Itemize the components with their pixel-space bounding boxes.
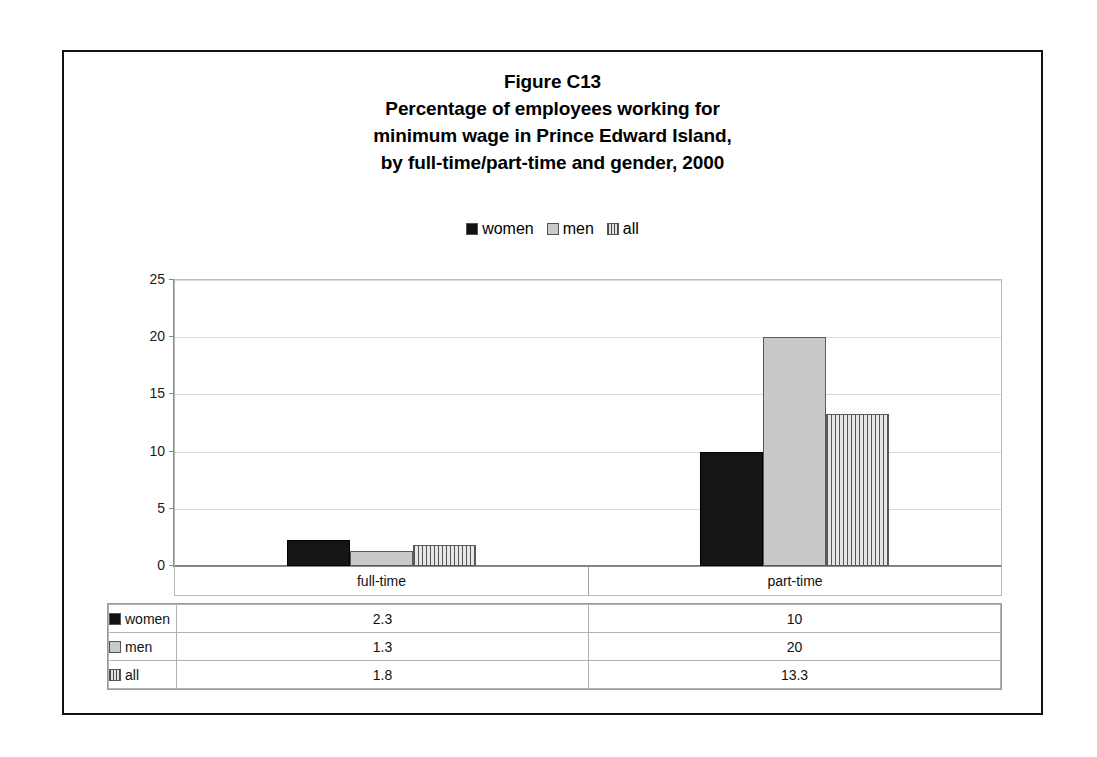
solid-black-swatch-icon — [466, 223, 478, 235]
bar-group-part-time — [588, 278, 1001, 566]
bar-women-part-time — [700, 452, 763, 566]
table-cell-all-part-time: 13.3 — [589, 661, 1001, 689]
chart-legend: women men all — [64, 220, 1041, 238]
y-axis-tick-mark — [169, 565, 174, 566]
category-label-part-time: part-time — [588, 567, 1001, 595]
table-row: women 2.3 10 — [109, 605, 1001, 633]
legend-label-men: men — [563, 220, 594, 238]
y-axis-tick-label: 20 — [149, 328, 165, 344]
solid-gray-swatch-icon — [547, 223, 559, 235]
data-table: women 2.3 10 men 1.3 — [107, 603, 1002, 690]
bar-men-part-time — [763, 337, 826, 566]
y-axis-tick-label: 25 — [149, 271, 165, 287]
y-axis-tick-mark — [169, 508, 174, 509]
legend-item-men: men — [547, 220, 594, 238]
solid-gray-swatch-icon — [109, 641, 121, 653]
bar-group-full-time — [175, 278, 588, 566]
table-cell-all-full-time: 1.8 — [177, 661, 589, 689]
bar-all-part-time — [826, 414, 889, 566]
category-axis-strip: full-time part-time — [174, 567, 1002, 596]
table-cell-women-full-time: 2.3 — [177, 605, 589, 633]
bar-all-full-time — [413, 545, 476, 566]
bar-men-full-time — [350, 551, 413, 566]
table-row-key-women: women — [109, 605, 177, 633]
table-key-label: women — [125, 611, 170, 627]
table-cell-men-full-time: 1.3 — [177, 633, 589, 661]
solid-black-swatch-icon — [109, 613, 121, 625]
legend-item-all: all — [607, 220, 639, 238]
legend-label-women: women — [482, 220, 534, 238]
bar-women-full-time — [287, 540, 350, 566]
y-axis-tick-mark — [169, 393, 174, 394]
vertical-stripe-swatch-icon — [109, 669, 121, 681]
plot-wrapper: 0510152025 — [174, 279, 1002, 567]
title-line-3: minimum wage in Prince Edward Island, — [64, 122, 1041, 149]
y-axis-tick-label: 0 — [157, 557, 165, 573]
vertical-stripe-swatch-icon — [607, 223, 619, 235]
title-line-2: Percentage of employees working for — [64, 95, 1041, 122]
figure-page: Figure C13 Percentage of employees worki… — [0, 0, 1097, 757]
category-label-full-time: full-time — [175, 567, 588, 595]
y-axis-tick-label: 15 — [149, 385, 165, 401]
table-key-label: men — [125, 639, 152, 655]
table-key-label: all — [125, 667, 139, 683]
y-axis-tick-label: 5 — [157, 500, 165, 516]
table-row-key-all: all — [109, 661, 177, 689]
plot-area — [174, 279, 1002, 567]
table-cell-women-part-time: 10 — [589, 605, 1001, 633]
title-line-4: by full-time/part-time and gender, 2000 — [64, 149, 1041, 176]
y-axis-tick-label: 10 — [149, 443, 165, 459]
figure-frame: Figure C13 Percentage of employees worki… — [62, 50, 1043, 715]
y-axis-tick-mark — [169, 279, 174, 280]
title-line-1: Figure C13 — [64, 68, 1041, 95]
legend-item-women: women — [466, 220, 534, 238]
chart-title: Figure C13 Percentage of employees worki… — [64, 68, 1041, 176]
table-row-key-men: men — [109, 633, 177, 661]
table-cell-men-part-time: 20 — [589, 633, 1001, 661]
y-axis-tick-mark — [169, 451, 174, 452]
legend-label-all: all — [623, 220, 639, 238]
table-row: men 1.3 20 — [109, 633, 1001, 661]
y-axis-tick-mark — [169, 336, 174, 337]
table-row: all 1.8 13.3 — [109, 661, 1001, 689]
